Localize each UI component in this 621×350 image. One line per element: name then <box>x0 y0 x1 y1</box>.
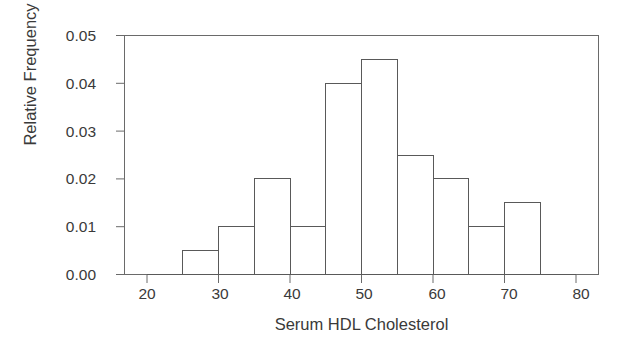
histogram-bar <box>326 83 362 274</box>
x-axis-ticks <box>147 275 576 284</box>
histogram-bar <box>183 251 219 275</box>
histogram-bar <box>219 227 255 275</box>
histogram-bars <box>183 59 541 274</box>
plot-area <box>0 0 621 350</box>
histogram-bar <box>290 227 326 275</box>
histogram-bar <box>433 179 469 275</box>
y-axis-ticks <box>116 36 125 275</box>
histogram-bar <box>505 203 541 275</box>
histogram-figure: Relative Frequency Serum HDL Cholesterol… <box>0 0 621 350</box>
histogram-bar <box>362 59 398 274</box>
histogram-bar <box>254 179 290 275</box>
histogram-bar <box>397 155 433 275</box>
histogram-bar <box>469 227 505 275</box>
